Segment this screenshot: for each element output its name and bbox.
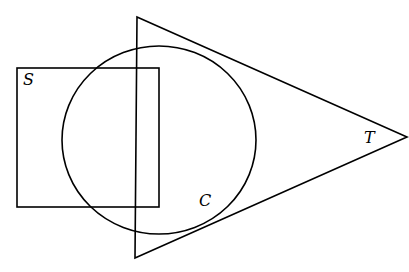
square-s (17, 68, 159, 207)
label-t: T (364, 130, 375, 146)
diagram-svg (0, 0, 409, 272)
label-s: S (23, 72, 34, 88)
label-c: C (199, 193, 211, 209)
venn-diagram: S T C (0, 0, 409, 272)
